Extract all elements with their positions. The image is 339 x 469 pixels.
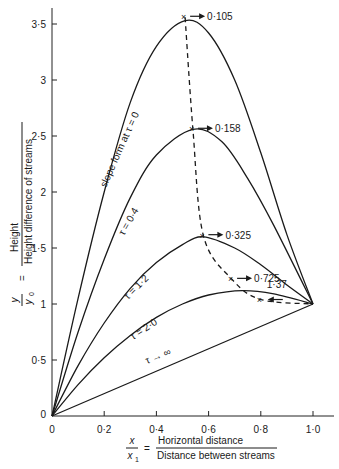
y-label-eq: = xyxy=(17,275,28,281)
x-tick-label: 0 xyxy=(49,424,55,435)
x-tick-label: 0·8 xyxy=(254,424,269,435)
curve-label: τ = 1·2 xyxy=(122,272,151,301)
series-curve-4 xyxy=(52,304,313,416)
y-tick-label: 0 xyxy=(40,409,46,420)
series-curve-0 xyxy=(52,20,313,416)
y-label-lhs-num: y xyxy=(9,297,20,304)
curve-label: slope form at τ = 0 xyxy=(98,109,141,188)
cross-marker-icon: × xyxy=(199,231,204,241)
x-tick-label: 0·6 xyxy=(201,424,216,435)
x-tick-label: 0·4 xyxy=(149,424,164,435)
y-label-lhs-den: y xyxy=(23,299,34,306)
y-tick-label: 3 xyxy=(40,75,46,86)
y-tick-label: 1 xyxy=(40,299,46,310)
x-label-eq: = xyxy=(144,443,150,454)
arrow-head-icon xyxy=(207,125,213,131)
crest-locus: ×0·105×0·158×0·325×0·725×1·37 xyxy=(181,11,313,304)
curve-label: τ = 2·0 xyxy=(128,316,159,342)
y-axis-label: yy0=HeightHeight difference of streams xyxy=(9,122,35,306)
locus-label: 0·105 xyxy=(207,11,233,22)
arrow-head-icon xyxy=(199,13,205,19)
locus-label: 0·325 xyxy=(225,230,251,241)
arrow-head-icon xyxy=(246,275,252,281)
series-curve-2 xyxy=(52,237,313,416)
axes: 00·20·40·60·81·000·511·522·533·5 xyxy=(32,8,334,435)
y-label-lhs-sub: 0 xyxy=(28,292,35,296)
cross-marker-icon: × xyxy=(181,12,186,22)
y-label-num: Height xyxy=(9,223,20,252)
curve-label: τ → ∞ xyxy=(144,346,173,366)
series-curve-3 xyxy=(52,291,313,416)
cross-marker-icon: × xyxy=(257,295,262,305)
x-axis-label: xx1=Horizontal distanceDistance between … xyxy=(126,435,277,463)
x-label-num: Horizontal distance xyxy=(158,435,243,446)
labels: slope form at τ = 0τ = 0·4τ = 1·2τ = 2·0… xyxy=(9,109,277,463)
y-tick-label: 2 xyxy=(40,187,46,198)
arrow-head-icon xyxy=(217,232,223,238)
curves xyxy=(52,20,313,416)
x-label-lhs-den: x xyxy=(127,450,134,461)
cross-marker-icon: × xyxy=(228,274,233,284)
locus-marker: ×0·325 xyxy=(199,230,251,241)
locus-label: 0·158 xyxy=(215,123,241,134)
x-tick-label: 0·2 xyxy=(97,424,112,435)
y-tick-label: 0·5 xyxy=(32,355,47,366)
chart: 00·20·40·60·81·000·511·522·533·5 ×0·105×… xyxy=(0,0,339,469)
locus-label: 1·37 xyxy=(267,279,287,290)
y-tick-label: 3·5 xyxy=(32,19,47,30)
x-tick-label: 1·0 xyxy=(306,424,321,435)
cross-marker-icon: × xyxy=(189,124,194,134)
x-label-lhs-sub: 1 xyxy=(135,456,139,463)
x-label-den: Distance between streams xyxy=(157,450,275,461)
locus-dashed-line xyxy=(185,17,313,304)
x-label-lhs-num: x xyxy=(129,435,136,446)
y-label-den: Height difference of streams xyxy=(23,139,34,264)
